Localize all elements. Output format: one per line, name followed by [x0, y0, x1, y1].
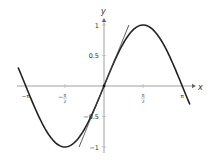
point-of-tangency: [103, 85, 106, 88]
y-tick-label: 1: [95, 22, 99, 30]
y-tick-label: −1: [89, 144, 99, 152]
y-axis-label: y: [100, 7, 106, 16]
x-tick-label: −π2: [58, 93, 67, 104]
axes: [17, 18, 196, 153]
x-axis-label: x: [197, 83, 203, 92]
x-axis-arrow-icon: [192, 84, 196, 88]
sine-tangent-chart: −π−π2π2π10.5−0.5−1 xy: [0, 0, 207, 161]
svg-text:−: −: [58, 93, 63, 100]
svg-text:2: 2: [63, 99, 66, 104]
svg-text:π: π: [64, 93, 67, 98]
x-tick-label: π2: [141, 93, 145, 104]
axis-labels: xy: [100, 7, 203, 92]
x-tick-label: π: [181, 93, 185, 99]
svg-text:2: 2: [142, 99, 145, 104]
y-axis-arrow-icon: [102, 18, 106, 22]
y-tick-label: 0.5: [89, 52, 99, 60]
svg-text:π: π: [142, 93, 145, 98]
svg-text:π: π: [181, 93, 185, 99]
